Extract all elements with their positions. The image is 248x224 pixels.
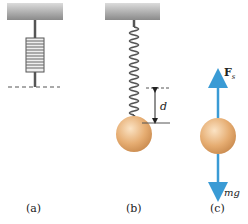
spring-compact-a <box>26 38 44 72</box>
gravity-force-label: mg <box>224 187 240 198</box>
panel-a <box>7 3 63 87</box>
spring-force-label: Fs <box>224 66 235 81</box>
spring-stretched-b <box>130 27 139 115</box>
panel-c <box>200 78 236 192</box>
caption-b: (b) <box>126 202 142 215</box>
caption-a: (a) <box>26 202 41 215</box>
force-subscript: s <box>232 73 236 81</box>
spring-diagram <box>0 0 248 224</box>
ceiling-a <box>7 3 63 20</box>
ceiling-b <box>105 3 160 20</box>
force-symbol: F <box>224 66 232 79</box>
caption-c: (c) <box>210 202 225 215</box>
ball-b <box>116 116 152 152</box>
panel-b <box>105 3 170 152</box>
ball-c <box>200 118 236 154</box>
displacement-label: d <box>160 100 167 113</box>
